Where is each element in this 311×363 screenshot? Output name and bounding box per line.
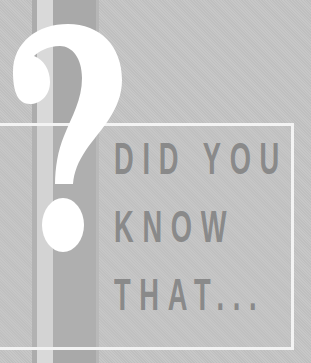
headline-line-1: DID YOU <box>114 137 288 181</box>
headline-line-3: THAT... <box>114 273 265 317</box>
headline-line-2: KNOW <box>114 205 235 249</box>
did-you-know-banner: DID YOU KNOW THAT... <box>0 0 311 363</box>
